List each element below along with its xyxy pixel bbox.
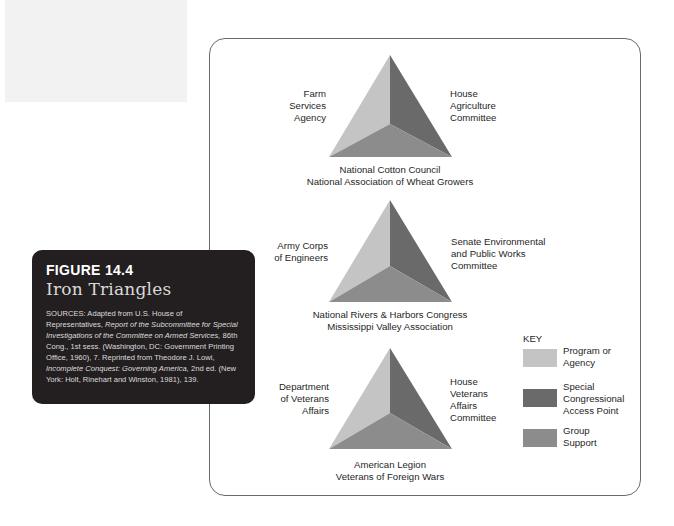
triangle-3-group-label: American Legion Veterans of Foreign Wars xyxy=(290,459,490,483)
triangle-2-agency-label: Army Corps of Engineers xyxy=(274,240,328,264)
key-swatch-group-support xyxy=(523,429,557,447)
triangle-2-group-label: National Rivers & Harbors Congress Missi… xyxy=(290,309,490,333)
triangle-public-works xyxy=(329,200,452,302)
triangle-1-agency-label: Farm Services Agency xyxy=(289,88,326,124)
triangle-3-committee-label: House Veterans Affairs Committee xyxy=(450,376,496,424)
triangle-1-group-label: National Cotton Council National Associa… xyxy=(290,164,490,188)
key-swatch-congressional xyxy=(523,389,557,407)
key-label-group-support: Group Support xyxy=(563,425,597,449)
triangle-2-committee-label: Senate Environmental and Public Works Co… xyxy=(451,236,545,272)
triangle-agriculture xyxy=(329,55,452,157)
key-label-congressional: Special Congressional Access Point xyxy=(563,381,624,417)
triangle-3-agency-label: Department of Veterans Affairs xyxy=(279,381,329,417)
triangle-1-committee-label: House Agriculture Committee xyxy=(450,88,496,124)
key-label-program-agency: Program or Agency xyxy=(563,345,611,369)
key-swatch-program-agency xyxy=(523,349,557,367)
triangle-veterans xyxy=(329,348,452,449)
key-title: KEY xyxy=(523,333,542,344)
